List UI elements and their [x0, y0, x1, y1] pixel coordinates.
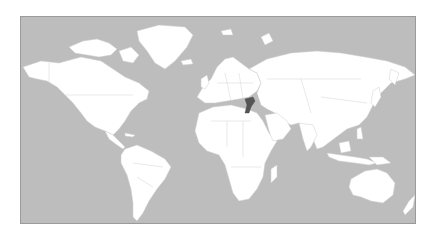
landmass-iceland — [181, 59, 193, 65]
landmass-new-zealand — [403, 195, 415, 215]
landmass-south-america — [121, 145, 171, 221]
landmass-australia — [349, 169, 395, 203]
landmass-philippines — [357, 127, 363, 139]
landmass-africa — [195, 105, 277, 201]
landmass-central-america — [105, 131, 125, 149]
world-map-frame — [20, 16, 416, 224]
landmass-madagascar — [271, 165, 277, 183]
landmass-indonesia — [327, 153, 377, 165]
landmass-novaya-zemlya — [261, 33, 273, 45]
landmass-borneo — [339, 141, 351, 153]
landmass-arctic-islands — [69, 39, 117, 57]
landmass-svalbard — [221, 29, 233, 35]
landmass-caribbean — [125, 133, 135, 137]
world-map — [21, 17, 416, 224]
highlighted-country — [245, 97, 255, 113]
landmass-north-america — [23, 57, 149, 135]
landmass-baffin — [119, 47, 139, 63]
